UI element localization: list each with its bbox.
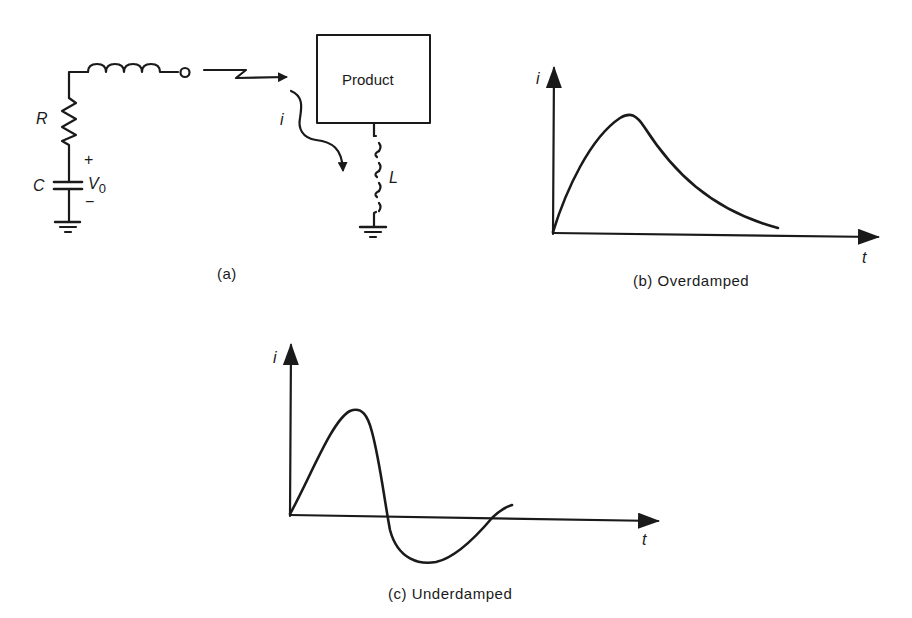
- wire-top-left: [69, 72, 88, 98]
- y-axis: [290, 345, 291, 516]
- minus-label: −: [85, 194, 94, 210]
- plus-label: +: [84, 152, 93, 168]
- product-label: Product: [342, 72, 394, 87]
- capacitor-label: C: [33, 178, 45, 194]
- discharge-arrow-icon: [204, 70, 286, 78]
- capacitor-icon: [54, 182, 82, 222]
- cutoff-caption-strip: [0, 611, 912, 618]
- inductor-label: L: [389, 170, 398, 186]
- panel-b-x-label: t: [862, 250, 866, 266]
- terminal-icon: [181, 68, 190, 77]
- panel-b-caption: (b) Overdamped: [633, 273, 749, 288]
- voltage-symbol: V: [88, 175, 99, 192]
- x-axis: [553, 233, 878, 237]
- ground-icon: [55, 222, 80, 232]
- x-axis: [290, 515, 658, 521]
- overdamped-curve: [553, 115, 778, 232]
- ground-icon: [360, 222, 386, 237]
- source-inductor-icon: [88, 64, 178, 72]
- panel-a-circuit: [54, 35, 430, 237]
- panel-b-y-label: i: [536, 71, 540, 87]
- figure-canvas: [0, 0, 912, 618]
- panel-a-caption: (a): [217, 266, 237, 281]
- product-inductor-icon: [374, 123, 381, 222]
- current-label: i: [280, 112, 284, 128]
- underdamped-curve: [290, 410, 512, 563]
- panel-c-chart: [290, 345, 658, 563]
- panel-b-chart: [553, 68, 878, 237]
- y-axis: [553, 68, 554, 234]
- panel-c-y-label: i: [273, 350, 277, 366]
- panel-c-caption: (c) Underdamped: [388, 586, 512, 601]
- panel-c-x-label: t: [642, 532, 646, 548]
- resistor-icon: [62, 98, 76, 182]
- resistor-label: R: [36, 111, 48, 127]
- voltage-subscript: 0: [99, 181, 106, 196]
